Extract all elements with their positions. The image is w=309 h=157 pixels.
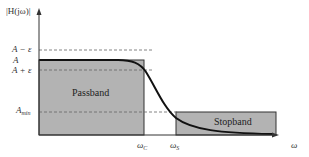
y-axis-label: |H(jω)| [6,7,31,16]
a-minus-eps-text: A − ε [12,44,31,54]
omega-c-subscript: C [143,145,147,151]
stopband-label: Stopband [214,117,252,127]
a-text: A [13,55,19,65]
a-min-label: Amin [16,106,31,116]
y-axis-arrow-icon [37,8,42,15]
a-plus-eps-text: A + ε [12,65,31,75]
omega-s-subscript: S [176,145,179,151]
y-axis-label-text: |H(jω)| [6,6,31,16]
passband-label: Passband [72,88,109,98]
omega-s-label: ωS [170,141,179,151]
a-minus-eps-label: A − ε [12,45,31,54]
omega-c-label: ωC [137,141,147,151]
x-axis-label: ω [291,141,297,150]
filter-spec-diagram [0,0,309,157]
a-min-subscript: min [22,110,31,116]
x-axis-label-text: ω [291,140,297,150]
a-plus-eps-label: A + ε [12,66,31,75]
a-label: A [13,56,19,65]
